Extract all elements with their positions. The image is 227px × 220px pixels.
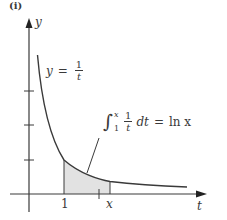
y-axis-arrow-icon bbox=[26, 18, 33, 28]
curve-label-num: 1 bbox=[75, 59, 83, 71]
panel-label: (i) bbox=[9, 1, 22, 11]
integral-num: 1 bbox=[124, 110, 132, 122]
pointer-line bbox=[87, 138, 99, 173]
integral-eq: = bbox=[154, 116, 164, 128]
curve-label-eq: = bbox=[58, 65, 68, 77]
x-axis-label: t bbox=[197, 200, 202, 212]
integral-dt: dt bbox=[136, 116, 149, 128]
x-tick-label-1: 1 bbox=[61, 198, 69, 210]
integral-lower-limit: 1 bbox=[114, 125, 119, 133]
x-tick-label-x: x bbox=[106, 198, 113, 210]
integral-rhs: ln x bbox=[169, 116, 191, 128]
integral-label: ∫ x 1 1 t dt = ln x bbox=[103, 110, 191, 133]
integral-den: t bbox=[126, 122, 130, 133]
y-axis-label: y bbox=[35, 16, 42, 28]
integral-fraction: 1 t bbox=[124, 110, 132, 133]
curve-label-lhs: y bbox=[46, 65, 53, 77]
curve-label: y = 1 t bbox=[46, 59, 85, 82]
curve-label-fraction: 1 t bbox=[75, 59, 83, 82]
integral-sign-icon: ∫ bbox=[103, 112, 113, 131]
curve-label-den: t bbox=[77, 71, 81, 82]
x-axis-arrow-icon bbox=[196, 191, 207, 198]
integral-upper-limit: x bbox=[114, 111, 119, 119]
